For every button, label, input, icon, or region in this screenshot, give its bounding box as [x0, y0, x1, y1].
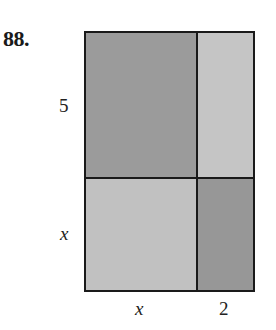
region-bottom-left — [86, 178, 197, 290]
problem-number: 88. — [3, 26, 29, 52]
region-top-right — [197, 33, 253, 178]
label-side-x-left: x — [60, 223, 68, 245]
label-side-x-bottom: x — [135, 298, 143, 320]
vertical-divider — [196, 33, 198, 290]
label-side-2: 2 — [219, 298, 229, 320]
region-bottom-right — [197, 178, 253, 290]
horizontal-divider — [86, 177, 253, 179]
label-side-5: 5 — [59, 95, 69, 117]
region-top-left — [86, 33, 197, 178]
area-model-rectangle — [84, 31, 255, 292]
